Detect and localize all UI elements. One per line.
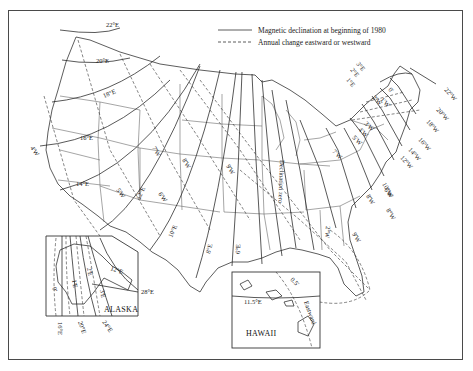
iso-label-10e: 10°E [167,224,179,239]
hawaii-label-11-5e: 11.5°E [244,298,262,305]
iso-label-22w: 22°W [443,86,459,103]
iso-label-6e: 6°E [234,244,241,254]
legend-solid-label: Magnetic declination at beginning of 198… [258,26,386,35]
annual-label-9w: 9'W [225,163,237,176]
annual-label-7w: 7'W [151,145,163,158]
legend-dashed-label: Annual change eastward or westward [258,38,371,47]
alaska-label-16e: 16°E [57,322,64,335]
hawaii-inset: 11.5°E 0.5' Eastward HAWAII [232,272,320,348]
agonic-line-label: Declination zero [277,160,286,203]
annual-label-8w: 8'W [181,157,193,170]
alaska-label-24e: 24°E [101,319,114,334]
annual-label-5w: 5'W [115,187,127,200]
annual-label-4w: 4'W [29,145,41,158]
iso-label-2w: 2°W [324,226,332,239]
iso-label-8e: 8°E [204,243,213,254]
iso-label-20w: 20°W [435,106,451,123]
alaska-label-3e-annual: 3'E [99,289,107,299]
alaska-label-1e-annual: 1'E [71,279,79,289]
alaska-label-2e-annual: 2'E [86,267,94,277]
legend: Magnetic declination at beginning of 198… [218,26,386,47]
iso-label-16w: 16°W [417,136,433,153]
annual-label-6w: 6'W [157,191,169,204]
annual-label-0: 0' [387,86,395,94]
iso-label-18w: 18°W [425,118,441,135]
iso-label-22e: 22°E [106,21,119,28]
alaska-label-28e: 28°E [141,288,154,295]
iso-label-8w: 8°W [385,207,397,222]
alaska-inset: 12°E 28°E 16°E 20°E 24°E 1'E 2'E 3'E 0' … [46,236,154,335]
iso-label-12e: 12°E [135,186,147,201]
iso-label-1e: 1°E [345,76,357,88]
declination-map: Magnetic declination at beginning of 198… [0,0,473,371]
annual-label-6w-east: 6'W [383,187,395,200]
hawaii-title: HAWAII [246,329,277,338]
iso-label-14e: 14°E [76,180,89,187]
alaska-label-20e: 20°E [77,320,88,335]
iso-label-20e: 20°E [96,57,109,64]
iso-label-16e: 16°E [80,134,93,141]
annual-change-labels: 4'W 5'W 6'W 7'W 8'W 9'W 3'W 4'W 5'W 6'W … [29,86,395,245]
annual-label-8w-east: 8'W [365,193,377,206]
alaska-title: ALASKA [104,305,138,314]
annual-label-9w-east: 9'W [351,231,363,244]
state-boundaries [52,84,388,250]
